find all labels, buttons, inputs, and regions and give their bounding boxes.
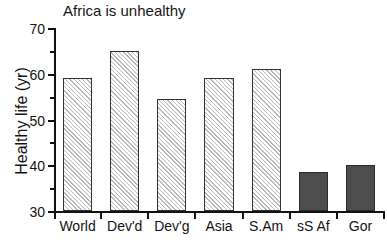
x-tick-label-asia: Asia: [205, 218, 232, 234]
bar-chart: Africa is unhealthy Healthy life (yr) 30…: [0, 0, 387, 246]
plot-area: 3040506070 WorldDev'dDev'gAsiaS.AmsS AfG…: [54, 28, 384, 212]
y-tick-label-70: 70: [29, 21, 45, 37]
x-tick-label-dev-g: Dev'g: [154, 218, 189, 234]
bar-gor: [346, 165, 375, 211]
x-tick-label-gor: Gor: [349, 218, 372, 234]
x-tick-label-world: World: [59, 218, 95, 234]
bar-s-am: [252, 69, 281, 211]
x-tick-label-ss-af: sS Af: [297, 218, 330, 234]
y-minor-tick-45: [50, 142, 55, 144]
x-tick-2: [194, 213, 196, 219]
x-tick-origin: [54, 213, 56, 219]
bar-dev-g: [157, 99, 186, 211]
y-axis-label: Healthy life (yr): [13, 41, 31, 201]
y-tick-70: [48, 28, 55, 30]
x-tick-label-dev-d: Dev'd: [107, 218, 142, 234]
x-tick-6: [383, 213, 385, 219]
x-tick-3: [242, 213, 244, 219]
y-minor-tick-35: [50, 188, 55, 190]
y-minor-tick-65: [50, 51, 55, 53]
chart-title: Africa is unhealthy: [63, 2, 186, 19]
x-tick-label-s-am: S.Am: [249, 218, 283, 234]
y-tick-label-60: 60: [29, 67, 45, 83]
x-tick-5: [336, 213, 338, 219]
x-tick-4: [289, 213, 291, 219]
y-tick-50: [48, 120, 55, 122]
x-tick-1: [147, 213, 149, 219]
bar-world: [63, 78, 92, 211]
y-tick-label-30: 30: [29, 204, 45, 220]
y-tick-label-40: 40: [29, 158, 45, 174]
y-tick-40: [48, 165, 55, 167]
bar-ss-af: [299, 172, 328, 211]
x-tick-0: [100, 213, 102, 219]
bar-asia: [204, 78, 233, 211]
y-minor-tick-55: [50, 97, 55, 99]
y-tick-label-50: 50: [29, 113, 45, 129]
bar-dev-d: [110, 51, 139, 211]
y-tick-60: [48, 74, 55, 76]
